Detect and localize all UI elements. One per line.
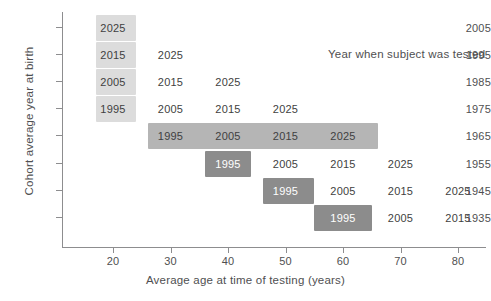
y-axis-line: [62, 12, 63, 247]
y-tick-label-1955: 1955: [439, 159, 491, 170]
cell-1935-age60: 1995: [320, 213, 366, 224]
cell-1945-age70: 2015: [378, 186, 424, 197]
x-tick-50: [286, 247, 287, 253]
cell-1955-age50: 2005: [263, 159, 309, 170]
y-tick-2005: [56, 27, 63, 28]
cell-1945-age50: 1995: [263, 186, 309, 197]
x-tick-60: [343, 247, 344, 253]
x-tick-label-70: 70: [381, 256, 421, 267]
x-tick-label-60: 60: [323, 256, 363, 267]
y-axis-title: Cohort average year at birth: [23, 6, 35, 236]
cell-1975-age50: 2025: [263, 104, 309, 115]
annotation-year-tested: Year when subject was tested: [328, 48, 485, 60]
y-tick-1995: [56, 54, 63, 55]
cell-1935-age70: 2005: [378, 213, 424, 224]
x-tick-label-80: 80: [438, 256, 478, 267]
x-tick-label-40: 40: [208, 256, 248, 267]
y-tick-label-1985: 1985: [439, 77, 491, 88]
y-tick-label-1965: 1965: [439, 131, 491, 142]
x-tick-40: [228, 247, 229, 253]
y-tick-1985: [56, 81, 63, 82]
cell-1985-age30: 2015: [148, 77, 194, 88]
cell-1985-age40: 2025: [205, 77, 251, 88]
x-tick-20: [113, 247, 114, 253]
cell-1975-age30: 2005: [148, 104, 194, 115]
y-tick-label-2005: 2005: [439, 23, 491, 34]
cell-1975-age20: 1995: [90, 104, 136, 115]
cell-1955-age60: 2015: [320, 159, 366, 170]
cell-1965-age30: 1995: [148, 131, 194, 142]
x-tick-80: [458, 247, 459, 253]
x-axis-title: Average age at time of testing (years): [0, 274, 491, 286]
y-tick-label-1975: 1975: [439, 104, 491, 115]
cell-1965-age50: 2015: [263, 131, 309, 142]
y-tick-1945: [56, 190, 63, 191]
y-tick-label-1945: 1945: [439, 186, 491, 197]
cell-2005-age20: 2025: [90, 23, 136, 34]
y-tick-1955: [56, 163, 63, 164]
cell-1985-age20: 2005: [90, 77, 136, 88]
cell-1975-age40: 2015: [205, 104, 251, 115]
x-tick-70: [401, 247, 402, 253]
y-tick-1935: [56, 217, 63, 218]
cohort-lexis-chart: 2025201520252005201520251995200520152025…: [0, 0, 491, 301]
x-axis-line: [62, 247, 486, 248]
cell-1965-age40: 2005: [205, 131, 251, 142]
x-tick-label-30: 30: [151, 256, 191, 267]
y-tick-1975: [56, 108, 63, 109]
y-tick-label-1935: 1935: [439, 213, 491, 224]
cell-1995-age30: 2025: [148, 50, 194, 61]
cell-1995-age20: 2015: [90, 50, 136, 61]
cell-1955-age70: 2025: [378, 159, 424, 170]
x-tick-label-20: 20: [93, 256, 133, 267]
cell-1965-age60: 2025: [320, 131, 366, 142]
y-tick-1965: [56, 135, 63, 136]
cell-1945-age60: 2005: [320, 186, 366, 197]
x-tick-30: [171, 247, 172, 253]
x-tick-label-50: 50: [266, 256, 306, 267]
cell-1955-age40: 1995: [205, 159, 251, 170]
